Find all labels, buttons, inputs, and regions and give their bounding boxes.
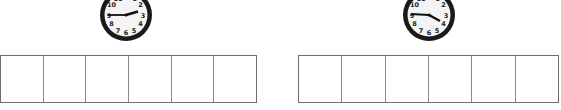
answer-cell[interactable]: [1, 56, 44, 102]
svg-text:8: 8: [412, 20, 417, 28]
svg-text:5: 5: [132, 27, 137, 35]
svg-text:6: 6: [427, 29, 432, 37]
svg-text:3: 3: [141, 12, 146, 20]
svg-text:5: 5: [435, 27, 440, 35]
svg-text:6: 6: [124, 29, 129, 37]
answer-cell[interactable]: [214, 56, 256, 102]
svg-text:4: 4: [441, 20, 446, 28]
svg-text:2: 2: [441, 1, 446, 9]
answer-cell[interactable]: [44, 56, 87, 102]
answer-cell[interactable]: [386, 56, 429, 102]
svg-text:1: 1: [132, 0, 137, 3]
answer-cell[interactable]: [429, 56, 472, 102]
svg-text:11: 11: [416, 0, 426, 3]
clock-2: 12 1 2 3 4 5 6 7 8 9 10 11: [401, 0, 457, 43]
minute-hand: [411, 14, 429, 15]
svg-text:7: 7: [419, 27, 424, 35]
answer-cell[interactable]: [172, 56, 215, 102]
svg-text:9: 9: [410, 12, 415, 20]
answer-cell[interactable]: [129, 56, 172, 102]
svg-text:2: 2: [138, 1, 143, 9]
svg-text:7: 7: [116, 27, 121, 35]
answer-cell[interactable]: [472, 56, 515, 102]
answer-cell[interactable]: [299, 56, 342, 102]
svg-text:1: 1: [435, 0, 440, 3]
answer-cell[interactable]: [516, 56, 558, 102]
svg-text:3: 3: [444, 12, 449, 20]
svg-text:8: 8: [109, 20, 114, 28]
clock-1: 12 1 2 3 4 5 6 7 8 9 10 11: [98, 0, 154, 43]
answer-grid-1: [0, 55, 257, 103]
answer-grid-2: [298, 55, 559, 103]
svg-text:4: 4: [138, 20, 143, 28]
answer-cell[interactable]: [86, 56, 129, 102]
svg-text:11: 11: [113, 0, 123, 3]
answer-cell[interactable]: [342, 56, 385, 102]
